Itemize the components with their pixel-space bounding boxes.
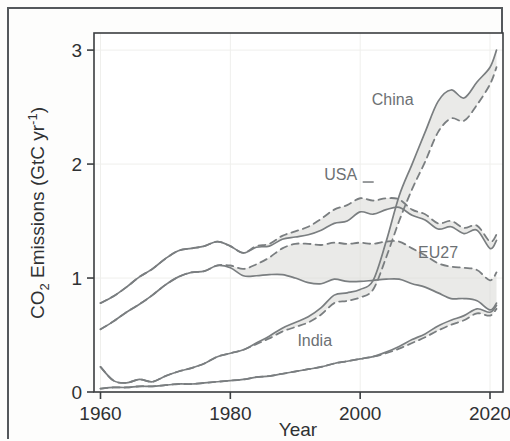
- co2-emissions-line-chart: 1960198020002020 0123 Year CO2 Emissions…: [0, 0, 510, 441]
- y-axis-tick-labels: 0123: [71, 40, 82, 403]
- y-axis-title-close: ): [27, 107, 48, 113]
- y-tick-label: 3: [71, 40, 82, 61]
- series-label-eu27: EU27: [418, 244, 458, 261]
- y-tick-label: 0: [71, 382, 82, 403]
- y-axis-title: CO2 Emissions (GtC yr-1): [25, 107, 52, 319]
- svg-text:CO2 Emissions (GtC yr-1): CO2 Emissions (GtC yr-1): [25, 107, 52, 319]
- y-axis-title-superscript: -1: [25, 113, 40, 125]
- y-axis-title-rest: Emissions (GtC yr: [27, 124, 48, 283]
- y-tick-label: 2: [71, 154, 82, 175]
- figure-container: 1960198020002020 0123 Year CO2 Emissions…: [0, 0, 510, 441]
- series-label-china: China: [372, 91, 414, 108]
- x-tick-label: 2000: [339, 403, 381, 424]
- x-axis-title: Year: [279, 419, 318, 440]
- series-label-india: India: [297, 332, 332, 349]
- y-tick-label: 1: [71, 268, 82, 289]
- x-tick-label: 1960: [79, 403, 121, 424]
- series-label-usa: USA: [324, 166, 357, 183]
- y-axis-title-main: CO: [27, 290, 48, 319]
- y-axis-title-subscript: 2: [37, 283, 52, 290]
- x-tick-label: 1980: [209, 403, 251, 424]
- x-tick-label: 2020: [469, 403, 510, 424]
